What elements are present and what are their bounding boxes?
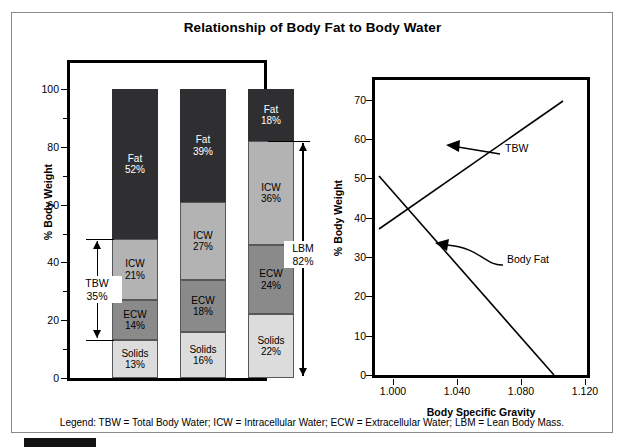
bar-3-solids-name: Solids bbox=[257, 335, 284, 347]
bar-2-solids-name: Solids bbox=[189, 344, 216, 356]
bar-2-fat-value: 39% bbox=[193, 146, 213, 158]
body-fat-line bbox=[379, 176, 554, 375]
tbw-bracket-bottom-tick bbox=[86, 340, 114, 341]
right-xtick-label-1080: 1.080 bbox=[498, 385, 544, 397]
bar-2-icw-value: 27% bbox=[193, 241, 213, 253]
left-ytick-label-80: 80 bbox=[33, 141, 59, 153]
bar-3-icw-name: ICW bbox=[261, 182, 280, 194]
body-fat-annotation-label: Body Fat bbox=[507, 253, 549, 265]
bar-1-solids-value: 13% bbox=[125, 359, 145, 371]
bar-2-icw-name: ICW bbox=[193, 230, 212, 242]
bar-3-solids-value: 22% bbox=[261, 346, 281, 358]
bar-1-fat-name: Fat bbox=[128, 153, 142, 165]
scan-artifact-bar bbox=[24, 438, 96, 447]
lbm-label-value: 82% bbox=[284, 255, 322, 268]
right-ytick-label-30: 30 bbox=[344, 251, 366, 263]
right-ytick-label-70: 70 bbox=[344, 94, 366, 106]
right-chart-y-axis-label: % Body Weight bbox=[332, 158, 344, 278]
bar-2-segment-icw: ICW 27% bbox=[180, 202, 226, 280]
lbm-bracket-top-tick bbox=[268, 141, 310, 142]
bar-1-fat-value: 52% bbox=[125, 164, 145, 176]
left-ytick-label-20: 20 bbox=[33, 314, 59, 326]
right-ytick-label-50: 50 bbox=[344, 172, 366, 184]
left-ytick-label-0: 0 bbox=[33, 372, 59, 384]
right-ytick-label-10: 10 bbox=[344, 330, 366, 342]
lbm-label-name: LBM bbox=[284, 242, 322, 255]
bar-3-segment-icw: ICW 36% bbox=[248, 141, 294, 245]
bar-2-fat-name: Fat bbox=[196, 134, 210, 146]
tbw-bracket-arrowhead-down bbox=[93, 330, 101, 338]
bar-3-icw-value: 36% bbox=[261, 193, 281, 205]
right-xtick-label-1040: 1.040 bbox=[434, 385, 480, 397]
right-xtick-label-1000: 1.000 bbox=[370, 385, 416, 397]
legend-text: Legend: TBW = Total Body Water; ICW = In… bbox=[11, 417, 613, 428]
bar-2-segment-fat: Fat 39% bbox=[180, 89, 226, 202]
left-ytick-label-60: 60 bbox=[33, 199, 59, 211]
bar-1-segment-solids: Solids 13% bbox=[112, 340, 158, 378]
bar-2-ecw-name: ECW bbox=[191, 295, 214, 307]
bar-2-ecw-value: 18% bbox=[193, 306, 213, 318]
bar-1-solids-name: Solids bbox=[121, 348, 148, 360]
bar-3-segment-fat: Fat 18% bbox=[248, 89, 294, 141]
left-ytick-label-40: 40 bbox=[33, 256, 59, 268]
tbw-annotation-arrow bbox=[446, 140, 500, 154]
bar-1-ecw-value: 14% bbox=[125, 320, 145, 332]
bar-3-ecw-value: 24% bbox=[261, 280, 281, 292]
right-ytick-label-0: 0 bbox=[344, 369, 366, 381]
page-title: Relationship of Body Fat to Body Water bbox=[0, 20, 625, 35]
tbw-bracket-top-tick bbox=[86, 239, 114, 240]
bar-2-segment-solids: Solids 16% bbox=[180, 332, 226, 378]
bar-2-solids-value: 16% bbox=[193, 355, 213, 367]
right-ytick-label-60: 60 bbox=[344, 133, 366, 145]
tbw-label-name: TBW bbox=[72, 277, 122, 290]
left-ytick-label-100: 100 bbox=[33, 83, 59, 95]
bar-1-segment-fat: Fat 52% bbox=[112, 89, 158, 239]
bar-1-segment-ecw: ECW 14% bbox=[112, 300, 158, 340]
tbw-label-value: 35% bbox=[72, 290, 122, 303]
right-chart-plot-area: TBW Body Fat bbox=[372, 77, 590, 378]
bar-3-fat-name: Fat bbox=[264, 104, 278, 116]
tbw-bracket-label: TBW 35% bbox=[72, 276, 122, 303]
bar-3-segment-solids: Solids 22% bbox=[248, 314, 294, 378]
right-ytick-label-20: 20 bbox=[344, 290, 366, 302]
lbm-bracket-arrowhead-up bbox=[299, 143, 307, 151]
lbm-bracket-label: LBM 82% bbox=[284, 241, 322, 268]
bar-2-segment-ecw: ECW 18% bbox=[180, 280, 226, 332]
tbw-annotation-label: TBW bbox=[505, 142, 528, 154]
bar-1-icw-value: 21% bbox=[125, 270, 145, 282]
tbw-bracket-arrowhead-up bbox=[93, 241, 101, 249]
tbw-line bbox=[379, 101, 563, 229]
right-chart-lines bbox=[375, 80, 587, 375]
left-chart-plot-area: Fat 52% ICW 21% ECW 14% Solids 13% Fat 3… bbox=[67, 60, 267, 381]
right-xtick-label-1120: 1.120 bbox=[562, 385, 608, 397]
lbm-bracket-arrowhead-down bbox=[299, 368, 307, 376]
figure-page: Relationship of Body Fat to Body Water %… bbox=[0, 0, 625, 447]
bar-3-fat-value: 18% bbox=[261, 115, 281, 127]
bar-1-icw-name: ICW bbox=[125, 258, 144, 270]
bar-1-ecw-name: ECW bbox=[123, 309, 146, 321]
bar-3-ecw-name: ECW bbox=[259, 268, 282, 280]
right-ytick-label-40: 40 bbox=[344, 212, 366, 224]
